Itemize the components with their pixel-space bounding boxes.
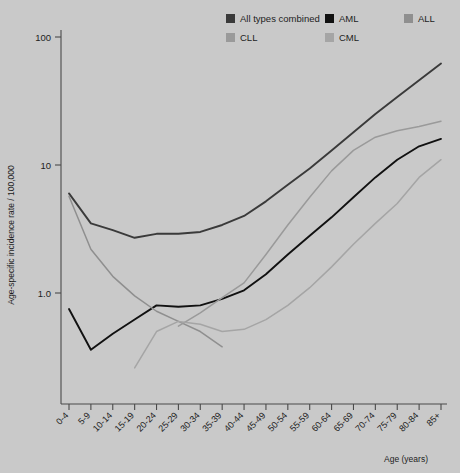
x-tick-label: 70-74 — [353, 410, 376, 433]
legend-label-aml: AML — [339, 13, 359, 24]
y-axis: 100101.0 Age-specific incidence rate / 1… — [6, 30, 61, 404]
x-tick-label: 85+ — [425, 410, 443, 428]
x-tick-label: 5-9 — [76, 410, 92, 426]
incidence-rate-line-chart: All types combinedAMLALLCLLCML 100101.0 … — [0, 0, 460, 473]
x-axis-ticks: 0-45-910-1415-1920-2425-2930-3435-3940-4… — [54, 404, 442, 434]
legend-label-all-types-combined: All types combined — [240, 13, 320, 24]
x-tick-label: 35-39 — [200, 410, 223, 433]
chart-legend: All types combinedAMLALLCLLCML — [226, 13, 435, 43]
x-tick-label: 55-59 — [288, 410, 311, 433]
legend-label-all: ALL — [418, 13, 435, 24]
x-tick-label: 65-69 — [332, 410, 355, 433]
series-line-cml — [135, 160, 441, 368]
x-tick-label: 50-54 — [266, 410, 289, 433]
x-tick-label: 40-44 — [222, 410, 245, 433]
legend-swatch-all-types-combined — [226, 14, 235, 23]
x-tick-label: 20-24 — [135, 410, 158, 433]
x-tick-label: 80-84 — [397, 410, 420, 433]
series-line-cll — [178, 121, 441, 326]
x-tick-label: 0-4 — [54, 410, 70, 426]
series-line-aml — [69, 139, 441, 350]
legend-swatch-aml — [325, 14, 334, 23]
x-axis: 0-45-910-1415-1920-2425-2930-3435-3940-4… — [54, 404, 447, 464]
y-tick-label: 1.0 — [38, 288, 51, 299]
x-tick-label: 60-64 — [310, 410, 333, 433]
x-tick-label: 25-29 — [156, 410, 179, 433]
x-tick-label: 15-19 — [113, 410, 136, 433]
y-axis-title: Age-specific incidence rate / 100,000 — [6, 165, 16, 305]
legend-label-cll: CLL — [240, 32, 257, 43]
legend-swatch-cll — [226, 33, 235, 42]
y-tick-label: 10 — [40, 160, 51, 171]
y-tick-label: 100 — [35, 32, 51, 43]
legend-label-cml: CML — [339, 32, 359, 43]
chart-series — [69, 64, 441, 368]
y-axis-ticks: 100101.0 — [35, 32, 61, 299]
chart-container: All types combinedAMLALLCLLCML 100101.0 … — [0, 0, 460, 473]
series-line-all-types-combined — [69, 64, 441, 238]
legend-swatch-all — [404, 14, 413, 23]
x-tick-label: 30-34 — [178, 410, 201, 433]
x-tick-label: 45-49 — [244, 410, 267, 433]
legend-swatch-cml — [325, 33, 334, 42]
x-tick-label: 10-14 — [91, 410, 114, 433]
x-axis-title: Age (years) — [384, 454, 428, 464]
x-tick-label: 75-79 — [375, 410, 398, 433]
